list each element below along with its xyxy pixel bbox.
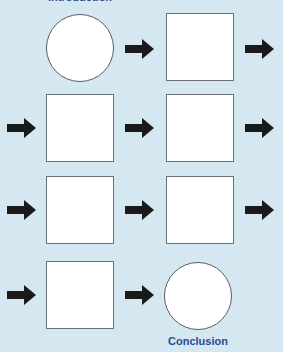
- arrow-right-icon: [125, 39, 154, 59]
- arrow-right-icon: [125, 200, 154, 220]
- conclusion-label: Conclusion: [158, 335, 238, 347]
- step-box-4: [46, 176, 114, 244]
- step-box-3: [166, 94, 234, 162]
- introduction-label: Introduction: [40, 0, 120, 3]
- step-box-5: [166, 176, 234, 244]
- arrow-right-icon: [7, 285, 36, 305]
- introduction-circle: [46, 14, 114, 82]
- arrow-right-icon: [245, 200, 274, 220]
- step-box-1: [166, 13, 234, 81]
- step-box-2: [46, 94, 114, 162]
- arrow-right-icon: [125, 118, 154, 138]
- arrow-right-icon: [245, 39, 274, 59]
- step-box-6: [46, 261, 114, 329]
- arrow-right-icon: [245, 118, 274, 138]
- arrow-right-icon: [7, 200, 36, 220]
- arrow-right-icon: [7, 118, 36, 138]
- conclusion-circle: [164, 262, 232, 330]
- arrow-right-icon: [125, 285, 154, 305]
